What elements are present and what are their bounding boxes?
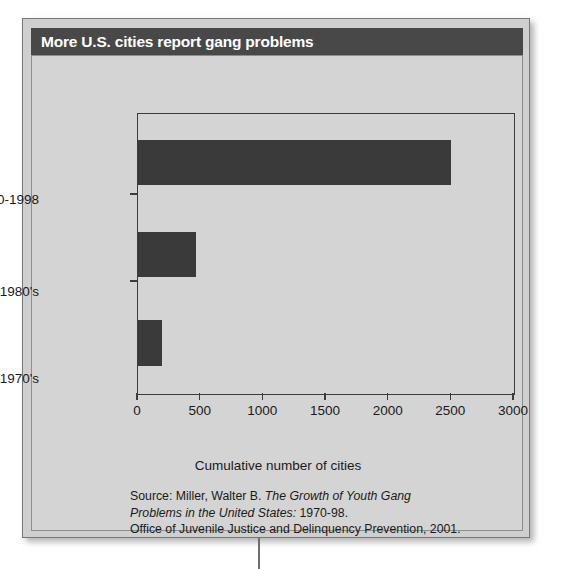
caption-years: 1970-98. bbox=[296, 506, 348, 520]
bar-1990-1998 bbox=[138, 140, 451, 185]
caption-line-2: Problems in the United States: 1970-98. bbox=[130, 505, 510, 522]
chart-title-bar: More U.S. cities report gang problems bbox=[31, 28, 523, 55]
caption-line-1: Source: Miller, Walter B. The Growth of … bbox=[130, 488, 510, 505]
x-axis-tick bbox=[450, 393, 452, 400]
caption-title-part1: The Growth of Youth Gang bbox=[265, 489, 411, 503]
y-axis-tick bbox=[130, 193, 137, 195]
caption-title-part2: Problems in the United States: bbox=[130, 506, 296, 520]
caption-source-prefix: Source: Miller, Walter B. bbox=[130, 489, 265, 503]
x-axis-tick bbox=[387, 393, 389, 400]
x-axis-tick-label: 3000 bbox=[498, 403, 528, 418]
bar-1970s bbox=[138, 320, 162, 366]
caption-line-3: Office of Juvenile Justice and Delinquen… bbox=[130, 521, 510, 538]
connector-line bbox=[258, 538, 260, 569]
chart-panel: 1990-1998 1980's 1970's 0500100015002000… bbox=[31, 55, 523, 531]
x-axis-tick-label: 2500 bbox=[435, 403, 465, 418]
x-axis-tick-label: 0 bbox=[133, 403, 141, 418]
y-axis-tick bbox=[130, 280, 137, 282]
category-label-1990-1998: 1990-1998 bbox=[0, 192, 39, 207]
plot-area bbox=[137, 113, 515, 395]
x-axis-tick bbox=[512, 393, 514, 400]
source-caption: Source: Miller, Walter B. The Growth of … bbox=[130, 488, 510, 538]
x-axis-tick-label: 1000 bbox=[247, 403, 277, 418]
x-axis-title: Cumulative number of cities bbox=[32, 458, 524, 473]
category-label-1970s: 1970's bbox=[0, 371, 39, 386]
bar-1980s bbox=[138, 232, 196, 277]
x-axis-tick bbox=[199, 393, 201, 400]
category-label-1980s: 1980's bbox=[0, 284, 39, 299]
page-title: More U.S. cities report gang problems bbox=[41, 33, 314, 51]
x-axis-tick bbox=[324, 393, 326, 400]
x-axis-tick-label: 2000 bbox=[373, 403, 403, 418]
x-axis-tick-label: 500 bbox=[188, 403, 211, 418]
x-axis-tick-label: 1500 bbox=[310, 403, 340, 418]
x-axis-tick bbox=[262, 393, 264, 400]
x-axis-tick bbox=[136, 393, 138, 400]
figure-card: More U.S. cities report gang problems 19… bbox=[22, 18, 530, 538]
